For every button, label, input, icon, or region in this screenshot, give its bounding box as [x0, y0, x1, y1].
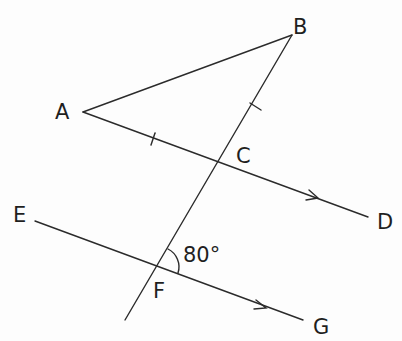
- label-c: C: [236, 144, 251, 168]
- angle-label: 80°: [183, 243, 220, 267]
- label-a: A: [55, 100, 70, 124]
- segment-acd: [83, 112, 368, 217]
- angle-arc-f: [168, 249, 179, 273]
- label-d: D: [377, 210, 393, 234]
- diagram-svg: A B C D E F G 80°: [0, 0, 402, 341]
- label-g: G: [313, 315, 329, 339]
- transversal-bf: [125, 35, 292, 320]
- geometry-diagram: A B C D E F G 80°: [0, 0, 402, 341]
- label-f: F: [153, 279, 165, 303]
- segment-ab: [83, 35, 292, 112]
- label-b: B: [293, 15, 307, 39]
- tick-mark-bc: [250, 103, 261, 110]
- label-e: E: [13, 203, 26, 227]
